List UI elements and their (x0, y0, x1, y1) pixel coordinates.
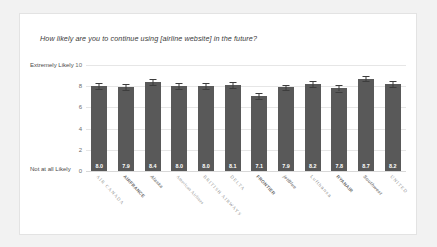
bar-value-label: 8.0 (176, 163, 184, 169)
y-axis-tick-label: 10 (75, 62, 82, 68)
bar[interactable]: 8.2 (385, 84, 401, 171)
x-axis-label-slot: RYANAIR (326, 172, 353, 232)
x-axis-label-slot: BRITISH AIRWAYS (193, 172, 220, 232)
x-axis-label: RYANAIR (336, 174, 355, 194)
error-bar-cap (202, 89, 209, 90)
error-bar-cap (362, 81, 369, 82)
error-bar-cap (336, 92, 343, 93)
x-axis-label: Alaska (149, 174, 164, 189)
bar-value-label: 8.4 (149, 163, 157, 169)
x-axis-label: UNITED (389, 174, 408, 194)
bar[interactable]: 7.9 (278, 87, 294, 171)
x-axis-label-slot: DELTA (219, 172, 246, 232)
x-axis-label-slot: AIR CANADA (86, 172, 113, 232)
y-axis-bottom-annotation: Not at all Likely (30, 166, 71, 172)
bar-group[interactable]: 7.1 (246, 65, 273, 171)
y-axis-tick-label: 0 (79, 168, 82, 174)
y-axis-tick-label: 6 (79, 104, 82, 110)
bar-value-label: 8.2 (309, 163, 317, 169)
bar-group[interactable]: 8.2 (299, 65, 326, 171)
y-axis-tick-label: 4 (79, 126, 82, 132)
error-bar-cap (282, 90, 289, 91)
error-bar-cap (96, 83, 103, 84)
bar[interactable]: 7.8 (331, 88, 347, 171)
plot-area: 0246810 8.07.98.48.08.08.17.17.98.27.88.… (86, 65, 406, 171)
bar-value-label: 8.0 (202, 163, 210, 169)
error-bar-cap (149, 85, 156, 86)
error-bar-cap (309, 81, 316, 82)
bar-value-label: 7.8 (336, 163, 344, 169)
error-bar-cap (389, 87, 396, 88)
x-axis-label-slot: Southwest (353, 172, 380, 232)
bar-group[interactable]: 8.4 (139, 65, 166, 171)
chart-plot-wrapper: Extremely Likely Not at all Likely 02468… (20, 14, 418, 236)
bar[interactable]: 8.0 (171, 86, 187, 171)
bar[interactable]: 8.2 (305, 84, 321, 171)
bar-group[interactable]: 8.7 (353, 65, 380, 171)
x-axis-label-slot: Alaska (139, 172, 166, 232)
bar[interactable]: 7.1 (251, 96, 267, 171)
x-axis-label-slot: AIRFRANCE (113, 172, 140, 232)
error-bar-cap (336, 85, 343, 86)
error-bar-cap (229, 82, 236, 83)
bar[interactable]: 8.1 (225, 85, 241, 171)
bar[interactable]: 8.0 (91, 86, 107, 171)
bar[interactable]: 8.0 (198, 86, 214, 171)
bar-group[interactable]: 8.2 (379, 65, 406, 171)
bar[interactable]: 8.4 (145, 82, 161, 171)
error-bar-cap (176, 83, 183, 84)
x-axis-label: jetBlue (282, 174, 297, 190)
bar[interactable]: 8.7 (358, 79, 374, 171)
x-axis-label-slot: Lufthansa (299, 172, 326, 232)
error-bar-cap (229, 88, 236, 89)
bar-group[interactable]: 7.9 (273, 65, 300, 171)
bar-series: 8.07.98.48.08.08.17.17.98.27.88.78.2 (86, 65, 406, 171)
bar-value-label: 8.7 (362, 163, 370, 169)
y-axis-tick-label: 2 (79, 147, 82, 153)
error-bar-cap (122, 90, 129, 91)
bar-group[interactable]: 8.0 (193, 65, 220, 171)
bar-group[interactable]: 8.0 (86, 65, 113, 171)
error-bar-cap (149, 79, 156, 80)
bar-value-label: 7.9 (122, 163, 130, 169)
y-axis-tick-label: 8 (79, 83, 82, 89)
error-bar-cap (256, 93, 263, 94)
error-bar-cap (122, 84, 129, 85)
bar[interactable]: 7.9 (118, 87, 134, 171)
error-bar-cap (282, 85, 289, 86)
x-axis-label-slot: FRONTIER (246, 172, 273, 232)
x-axis-label-slot: UNITED (379, 172, 406, 232)
error-bar-cap (202, 83, 209, 84)
bar-group[interactable]: 7.9 (113, 65, 140, 171)
error-bar-cap (176, 89, 183, 90)
error-bar-cap (256, 99, 263, 100)
x-axis-label-slot: jetBlue (273, 172, 300, 232)
bar-value-label: 8.1 (229, 163, 237, 169)
x-axis-label: DELTA (229, 174, 246, 191)
error-bar-cap (309, 87, 316, 88)
bar-group[interactable]: 7.8 (326, 65, 353, 171)
bar-value-label: 8.0 (96, 163, 104, 169)
error-bar-cap (362, 76, 369, 77)
x-axis-label-slot: American Airlines (166, 172, 193, 232)
chart-card: How likely are you to continue using [ai… (19, 13, 417, 235)
bar-value-label: 7.1 (256, 163, 264, 169)
error-bar-cap (96, 89, 103, 90)
y-axis-top-annotation: Extremely Likely (30, 62, 74, 68)
x-axis-labels: AIR CANADAAIRFRANCEAlaskaAmerican Airlin… (86, 172, 406, 232)
error-bar-cap (389, 81, 396, 82)
bar-group[interactable]: 8.1 (219, 65, 246, 171)
bar-value-label: 7.9 (282, 163, 290, 169)
bar-value-label: 8.2 (389, 163, 397, 169)
bar-group[interactable]: 8.0 (166, 65, 193, 171)
